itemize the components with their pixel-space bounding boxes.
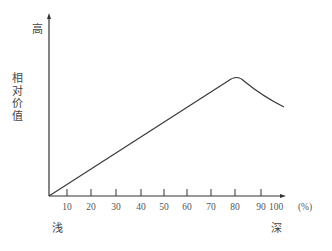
x-tick-label: 30	[111, 202, 121, 212]
x-left-label: 浅	[52, 223, 63, 235]
x-tick-label: 90	[256, 202, 266, 212]
chart-canvas	[0, 0, 332, 251]
x-tick-label: 80	[230, 202, 240, 212]
x-tick-label: 100	[269, 202, 283, 212]
x-axis-arrow	[280, 194, 286, 198]
x-ticks	[67, 189, 261, 196]
x-tick-label: 60	[182, 202, 192, 212]
x-tick-label: 50	[159, 202, 169, 212]
y-top-label: 高	[32, 24, 43, 36]
x-tick-label: 40	[136, 202, 146, 212]
x-tick-label: 20	[86, 202, 96, 212]
x-tick-label: 10	[62, 202, 72, 212]
value-curve	[49, 78, 284, 197]
y-axis-label: 相对价值	[12, 73, 25, 123]
x-tick-label: 70	[206, 202, 216, 212]
y-axis-arrow	[47, 13, 51, 19]
x-right-label: 深	[271, 223, 282, 235]
x-axis-unit: (%)	[298, 202, 312, 212]
